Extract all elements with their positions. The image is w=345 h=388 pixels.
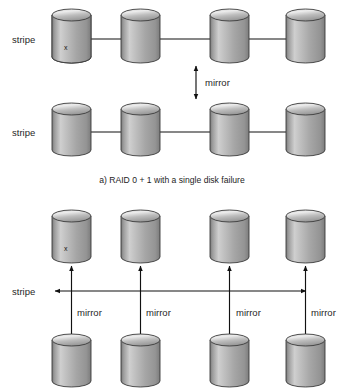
disk-a-r2-c3 (210, 103, 249, 156)
disk-a-r1-c2 (121, 9, 160, 63)
disk-b-r2-c2 (121, 334, 160, 387)
raid-diagram-svg: stripe x (0, 0, 345, 388)
disk-a-r1-c3 (210, 9, 249, 63)
disk-failure-marker-b: x (64, 245, 68, 252)
panel-b-row-2 (52, 334, 325, 387)
disk-b-r1-c1: x (52, 210, 91, 263)
disk-a-r2-c1 (52, 103, 91, 156)
stripe-label-b: stripe (12, 286, 35, 297)
panel-b: x (12, 210, 336, 387)
disk-b-r2-c1 (52, 334, 91, 387)
mirror-arrows-b (72, 266, 306, 341)
mirror-label-b-2: mirror (146, 307, 171, 318)
mirror-label-a: mirror (205, 77, 230, 88)
disk-b-r2-c3 (210, 334, 249, 387)
disk-b-r1-c2 (121, 210, 160, 263)
disk-a-r2-c4 (286, 103, 325, 156)
mirror-label-b-3: mirror (236, 307, 261, 318)
mirror-group-a: mirror (196, 66, 230, 99)
disk-failure-marker-a: x (64, 44, 68, 51)
caption-panel-a: a) RAID 0 + 1 with a single disk failure (99, 175, 245, 185)
mirror-label-b-1: mirror (77, 307, 102, 318)
panel-a: stripe x (12, 9, 325, 185)
disk-a-r1-c4 (286, 9, 325, 63)
disk-b-r1-c3 (210, 210, 249, 263)
mirror-labels-b: mirror mirror mirror mirror (77, 307, 336, 318)
disk-a-r1-c1: x (52, 9, 91, 63)
panel-a-row-1: stripe x (12, 9, 325, 63)
disk-b-r2-c4 (286, 334, 325, 387)
panel-a-row-2: stripe (12, 103, 325, 156)
stripe-label-a-row2: stripe (12, 127, 35, 138)
disk-a-r2-c2 (121, 103, 160, 156)
disk-b-r1-c4 (286, 210, 325, 263)
stripe-group-b: stripe (12, 286, 306, 297)
raid-figure: stripe x (0, 0, 345, 388)
stripe-label-a-row1: stripe (12, 34, 35, 45)
mirror-label-b-4: mirror (311, 307, 336, 318)
panel-b-row-1: x (52, 210, 325, 263)
